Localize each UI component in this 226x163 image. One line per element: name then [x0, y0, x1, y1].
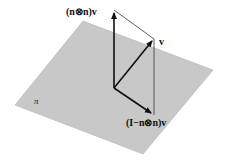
guide-line-top — [114, 10, 154, 39]
label-normal-component: (n⊗n)v — [66, 7, 97, 17]
label-plane-pi: π — [34, 96, 39, 106]
label-projection: (I−n⊗n)v — [126, 118, 166, 128]
label-v: v — [159, 37, 164, 47]
diagram-canvas — [0, 0, 226, 163]
